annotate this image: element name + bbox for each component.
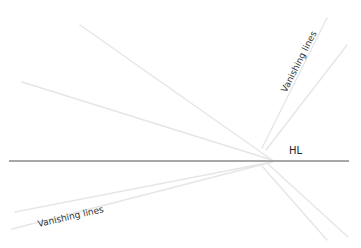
vanishing-line: [15, 162, 272, 212]
vanishing-line: [80, 25, 272, 160]
vanishing-line: [22, 82, 272, 160]
horizon-label: HL: [289, 145, 302, 156]
vanishing-line: [268, 164, 348, 237]
vanishing-line: [266, 45, 347, 150]
vanishing-line: [262, 166, 327, 240]
